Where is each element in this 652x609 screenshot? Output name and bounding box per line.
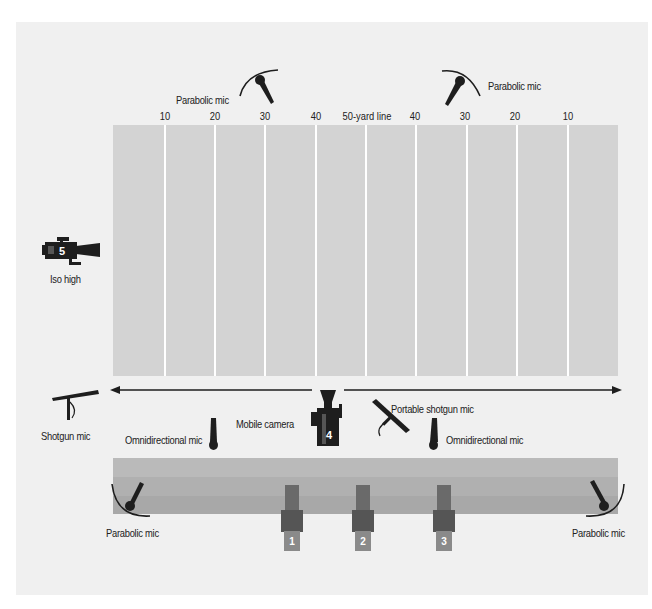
yard-line: [264, 125, 266, 376]
yard-label-30-left: 30: [260, 110, 270, 122]
parabolic-mic-icon-top-right: [436, 62, 486, 112]
parabolic-mic-label-bottom-left: Parabolic mic: [106, 527, 159, 539]
camera-body: [352, 510, 374, 532]
camera-track-arrow: [110, 385, 622, 395]
shotgun-mic-label: Shotgun mic: [41, 430, 90, 442]
parabolic-mic-label-top-left: Parabolic mic: [176, 94, 229, 106]
yard-line-50: [365, 125, 367, 376]
parabolic-mic-label-bottom-right: Parabolic mic: [572, 527, 625, 539]
camera-number: 1: [284, 531, 300, 551]
camera-lens: [356, 485, 370, 511]
camera-number: 5: [59, 245, 65, 257]
parabolic-mic-icon-top-left: [236, 62, 286, 112]
video-camera-icon-mobile: 4: [311, 390, 345, 448]
omni-mic-label-right: Omnidirectional mic: [446, 434, 523, 446]
yard-label-20-left: 20: [210, 110, 220, 122]
camera-lens: [285, 485, 299, 511]
omnidirectional-mic-icon-left: [207, 418, 221, 452]
camera-body: [433, 510, 455, 532]
video-camera-icon-iso-high: 5: [42, 237, 104, 267]
parabolic-mic-icon-bottom-right: [578, 480, 630, 526]
yard-line: [466, 125, 468, 376]
camera-number: 2: [355, 531, 371, 551]
yard-label-40-right: 40: [410, 110, 420, 122]
yard-label-10-left: 10: [160, 110, 170, 122]
omni-mic-label-left: Omnidirectional mic: [125, 434, 202, 446]
camera-number: 3: [436, 531, 452, 551]
yard-label-20-right: 20: [510, 110, 520, 122]
parabolic-mic-icon-bottom-left: [110, 480, 162, 526]
stands-band-top: [113, 458, 618, 477]
yard-label-40-left: 40: [311, 110, 321, 122]
yard-line: [415, 125, 417, 376]
parabolic-mic-label-top-right: Parabolic mic: [488, 80, 541, 92]
iso-high-label: Iso high: [50, 273, 81, 285]
yard-line: [214, 125, 216, 376]
camera-body: [281, 510, 303, 532]
yard-line: [516, 125, 518, 376]
camera-lens: [437, 485, 451, 511]
camera-number: 4: [326, 429, 333, 441]
portable-shotgun-mic-label: Portable shotgun mic: [391, 403, 474, 415]
yard-line: [164, 125, 166, 376]
yard-line: [315, 125, 317, 376]
omnidirectional-mic-icon-right: [427, 418, 441, 452]
mobile-camera-label: Mobile camera: [236, 418, 294, 430]
football-field: [113, 125, 618, 376]
yard-label-30-right: 30: [460, 110, 470, 122]
yard-label-50: 50-yard line: [343, 110, 392, 122]
shotgun-mic-icon: [50, 388, 102, 424]
yard-label-10-right: 10: [563, 110, 573, 122]
yard-line: [567, 125, 569, 376]
